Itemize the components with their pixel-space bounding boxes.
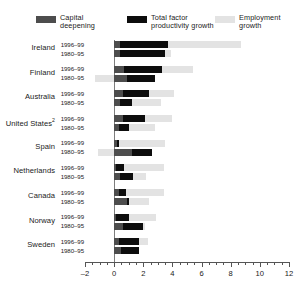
bar-row[interactable] xyxy=(85,41,289,48)
footnote-marker: 2 xyxy=(52,117,55,123)
axis-tick-label: 8 xyxy=(229,269,233,278)
bar-segment-employment-growth xyxy=(162,66,193,73)
axis-tick-major xyxy=(260,262,261,267)
bar-row[interactable] xyxy=(85,149,289,156)
bar-segment-employment-growth xyxy=(133,173,146,180)
category-label-finland: Finland xyxy=(30,68,55,77)
category-label-group: Finland1996–991980–95 xyxy=(0,66,85,82)
bar-row[interactable] xyxy=(85,198,289,205)
period-label: 1996–99 xyxy=(61,164,84,171)
period-label: 1980–95 xyxy=(61,99,84,106)
legend-label-employment-growth: Employment growth xyxy=(239,14,281,31)
bar-segment-tfp-growth xyxy=(132,149,152,156)
plot-area xyxy=(85,40,289,262)
axis-tick-major xyxy=(172,262,173,267)
axis-tick-minor xyxy=(121,262,122,265)
bar-segment-tfp-growth xyxy=(121,247,138,254)
category-label-united-states: United States2 xyxy=(6,117,55,128)
axis-tick-label: 12 xyxy=(285,269,293,278)
bar-row[interactable] xyxy=(85,223,289,230)
bar-segment-employment-growth xyxy=(149,90,174,97)
period-label: 1980–95 xyxy=(61,50,84,57)
bar-segment-employment-growth xyxy=(129,198,149,205)
period-label: 1996–99 xyxy=(61,90,84,97)
bar-segment-employment-growth xyxy=(129,214,157,221)
legend-item-total-factor-productivity-growth: Total factor productivity growth xyxy=(127,14,214,31)
axis-tick-minor xyxy=(151,262,152,265)
bar-row[interactable] xyxy=(85,238,289,245)
legend-label-capital-deepening: Capital deepening xyxy=(60,14,95,31)
axis-tick-label: 2 xyxy=(141,269,145,278)
axis-tick-minor xyxy=(194,262,195,265)
bar-segment-employment-growth xyxy=(139,238,148,245)
bar-segment-tfp-growth xyxy=(116,214,129,221)
axis-tick-minor xyxy=(107,262,108,265)
chart-root: Capital deepening Total factor productiv… xyxy=(0,0,297,293)
axis-tick-minor xyxy=(100,262,101,265)
bar-segment-tfp-growth xyxy=(124,66,162,73)
category-label-group: Sweden1996–991980–95 xyxy=(0,238,85,254)
axis-tick-minor xyxy=(180,262,181,265)
bar-row[interactable] xyxy=(85,214,289,221)
legend-item-employment-growth: Employment growth xyxy=(215,14,281,31)
bar-segment-tfp-growth xyxy=(127,75,155,82)
category-label-ireland: Ireland xyxy=(31,43,55,52)
bar-row[interactable] xyxy=(85,124,289,131)
axis-tick-minor xyxy=(253,262,254,265)
bar-row[interactable] xyxy=(85,90,289,97)
bar-segment-tfp-growth xyxy=(119,189,126,196)
period-label: 1980–95 xyxy=(61,247,84,254)
bar-segment-employment-growth xyxy=(95,75,114,82)
period-label: 1996–99 xyxy=(61,115,84,122)
bar-segment-capital-deepening xyxy=(114,247,121,254)
bar-segment-employment-growth xyxy=(129,124,155,131)
axis-tick-minor xyxy=(223,262,224,265)
bar-segment-employment-growth xyxy=(165,50,171,57)
axis-tick-label: 10 xyxy=(256,269,264,278)
bar-segment-employment-growth xyxy=(124,164,163,171)
bar-row[interactable] xyxy=(85,173,289,180)
bar-row[interactable] xyxy=(85,164,289,171)
axis-tick-label: 0 xyxy=(112,269,116,278)
legend-label-total-factor-productivity-growth: Total factor productivity growth xyxy=(151,14,214,31)
bar-segment-tfp-growth xyxy=(116,164,125,171)
bar-segment-tfp-growth xyxy=(119,124,129,131)
axis-tick-minor xyxy=(245,262,246,265)
axis-tick-minor xyxy=(165,262,166,265)
bar-row[interactable] xyxy=(85,115,289,122)
bar-segment-employment-growth xyxy=(145,115,173,122)
axis-tick-minor xyxy=(136,262,137,265)
category-label-group: Netherlands1996–991980–95 xyxy=(0,164,85,180)
bar-row[interactable] xyxy=(85,75,289,82)
axis-tick-minor xyxy=(274,262,275,265)
bar-row[interactable] xyxy=(85,247,289,254)
value-axis: –2024681012 xyxy=(85,262,289,290)
bar-row[interactable] xyxy=(85,189,289,196)
axis-tick-minor xyxy=(282,262,283,265)
bar-segment-capital-deepening xyxy=(114,149,131,156)
bar-segment-capital-deepening xyxy=(114,75,127,82)
bar-segment-capital-deepening xyxy=(114,90,123,97)
axis-tick-major xyxy=(202,262,203,267)
category-label-group: Norway1996–991980–95 xyxy=(0,214,85,230)
period-label: 1980–95 xyxy=(61,74,84,81)
category-label-group: United States21996–991980–95 xyxy=(0,115,85,131)
bar-row[interactable] xyxy=(85,66,289,73)
category-label-canada: Canada xyxy=(28,191,55,200)
axis-tick-label: 4 xyxy=(170,269,174,278)
bar-row[interactable] xyxy=(85,99,289,106)
category-label-group: Spain1996–991980–95 xyxy=(0,140,85,156)
category-label-australia: Australia xyxy=(25,92,55,101)
period-label: 1996–99 xyxy=(61,238,84,245)
bar-segment-tfp-growth xyxy=(119,238,139,245)
bar-segment-tfp-growth xyxy=(120,173,133,180)
category-label-group: Canada1996–991980–95 xyxy=(0,189,85,205)
axis-tick-label: –2 xyxy=(81,269,89,278)
legend-swatch-employment-growth xyxy=(215,16,235,23)
bar-segment-employment-growth xyxy=(132,99,161,106)
axis-tick-major xyxy=(143,262,144,267)
bar-row[interactable] xyxy=(85,50,289,57)
bar-row[interactable] xyxy=(85,140,289,147)
bar-segment-tfp-growth xyxy=(120,50,165,57)
category-axis-labels: Ireland1996–991980–95Finland1996–991980–… xyxy=(0,40,85,262)
